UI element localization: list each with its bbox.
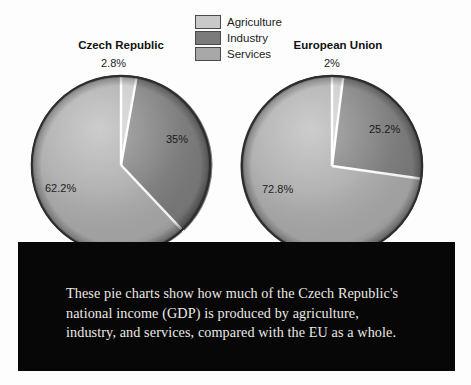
caption-line-1: These pie charts show how much of the Cz…: [66, 284, 438, 304]
pie-chart-european-union: [239, 73, 425, 259]
pie-chart-czech-republic: [29, 73, 213, 257]
pie-svg-czech-republic: [29, 73, 213, 257]
value-label-czech-agriculture: 2.8%: [101, 57, 126, 69]
value-label-czech-services: 62.2%: [45, 182, 76, 194]
value-label-eu-services: 72.8%: [262, 183, 293, 195]
caption-text: These pie charts show how much of the Cz…: [66, 284, 438, 343]
value-label-eu-agriculture: 2%: [324, 57, 340, 69]
legend: Agriculture Industry Services: [195, 14, 310, 62]
caption-line-3: industry, and services, compared with th…: [66, 323, 438, 343]
chart-title-european-union: European Union: [248, 39, 428, 51]
pie-svg-european-union: [239, 73, 425, 259]
value-label-eu-industry: 25.2%: [369, 123, 400, 135]
chart-title-czech-republic: Czech Republic: [31, 39, 211, 51]
caption-line-2: national income (GDP) is produced by agr…: [66, 304, 438, 324]
caption-box: These pie charts show how much of the Cz…: [18, 242, 455, 371]
legend-label-agriculture: Agriculture: [227, 15, 282, 29]
value-label-czech-industry: 35%: [166, 133, 188, 145]
pie-chart-figure: Agriculture Industry Services Czech Repu…: [0, 0, 471, 385]
legend-item-agriculture: Agriculture: [195, 14, 310, 29]
legend-swatch-agriculture: [195, 15, 221, 29]
